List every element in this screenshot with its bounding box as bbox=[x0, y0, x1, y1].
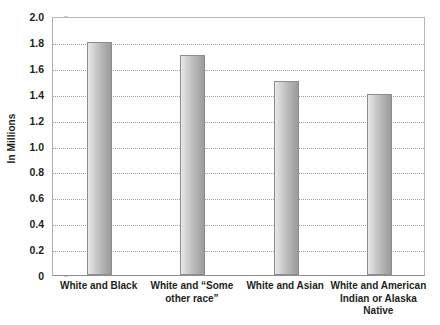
x-axis-category-label: White and AmericanIndian or AlaskaNative bbox=[325, 280, 432, 318]
y-axis-tick-label: 0.4 bbox=[29, 218, 44, 230]
plot-area bbox=[52, 17, 425, 276]
x-axis-category-label: White and Asian bbox=[232, 280, 339, 293]
y-axis-tick-label: 1.0 bbox=[29, 141, 44, 153]
y-axis-tick-label: 0.2 bbox=[29, 244, 44, 256]
y-axis-tick-label: 1.6 bbox=[29, 63, 44, 75]
x-axis-category-label-line: Native bbox=[325, 305, 432, 318]
bars-group bbox=[53, 18, 424, 275]
x-axis-category-label-line: White and “Some bbox=[138, 280, 245, 293]
x-axis-category-label-line: White and Black bbox=[45, 280, 152, 293]
x-axis-category-label: White and Black bbox=[45, 280, 152, 293]
x-axis-category-label-line: Indian or Alaska bbox=[325, 293, 432, 306]
y-axis-tick-label: 1.4 bbox=[29, 89, 44, 101]
y-axis-tick-label: 2.0 bbox=[29, 11, 44, 23]
y-axis-tick-label: 0 bbox=[38, 270, 44, 282]
bar bbox=[87, 42, 112, 275]
x-axis-category-label-line: other race” bbox=[138, 293, 245, 306]
bar bbox=[180, 55, 205, 275]
y-axis-title-text: In Millions bbox=[6, 113, 17, 163]
y-axis-tick-label: 1.2 bbox=[29, 115, 44, 127]
x-axis-category-label: White and “Someother race” bbox=[138, 280, 245, 305]
y-axis-tick-label: 0.8 bbox=[29, 166, 44, 178]
x-axis-category-labels: White and BlackWhite and “Someother race… bbox=[52, 280, 425, 325]
y-axis-tick-labels: 2.01.81.61.41.21.00.80.60.40.20 bbox=[16, 17, 48, 276]
bar-chart: In Millions 2.01.81.61.41.21.00.80.60.40… bbox=[0, 0, 440, 325]
x-axis-category-label-line: White and Asian bbox=[232, 280, 339, 293]
x-axis-category-label-line: White and American bbox=[325, 280, 432, 293]
bar bbox=[367, 94, 392, 275]
y-axis-tick-label: 0.6 bbox=[29, 192, 44, 204]
bar bbox=[274, 81, 299, 275]
y-axis-tick-label: 1.8 bbox=[29, 37, 44, 49]
